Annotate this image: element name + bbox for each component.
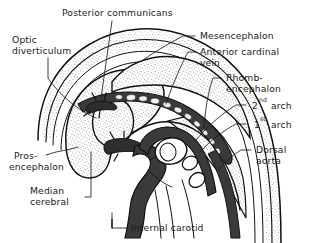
label-second-arch: 2 nd arch: [252, 96, 292, 112]
label-first-arch-word: arch: [271, 119, 292, 130]
label-rhombencephalon-line2: encephalon: [226, 83, 281, 94]
label-optic-diverticulum-line2: diverticulum: [12, 45, 71, 56]
label-posterior-communicans: Posterior communicans: [62, 7, 173, 18]
leader-internal-carotid: [112, 219, 127, 228]
label-second-arch-word: arch: [271, 100, 292, 111]
label-prosencephalon-line1: Pros-: [14, 150, 37, 161]
label-median-cerebral-line1: Median: [30, 185, 64, 196]
label-optic-diverticulum-line1: Optic: [12, 34, 37, 45]
label-rhombencephalon-line1: Rhomb-: [226, 72, 263, 83]
label-anterior-cardinal-vein-line2: vein: [200, 57, 220, 68]
label-internal-carotid: Internal carotid: [131, 222, 204, 233]
label-first-arch-superscript: st: [260, 115, 266, 122]
label-mesencephalon: Mesencephalon: [200, 30, 274, 41]
label-first-arch: 1 st arch: [254, 115, 292, 131]
label-anterior-cardinal-vein-line1: Anterior cardinal: [200, 46, 279, 57]
label-dorsal-aorta-line2: aorta: [256, 155, 281, 166]
label-dorsal-aorta-line1: Dorsal: [256, 144, 286, 155]
figure-container: Posterior communicans Optic diverticulum…: [0, 0, 318, 243]
label-second-arch-superscript: nd: [259, 96, 267, 103]
label-median-cerebral-line2: cerebral: [30, 196, 69, 207]
anatomical-diagram: Posterior communicans Optic diverticulum…: [0, 0, 318, 243]
label-second-arch-number: 2: [252, 100, 258, 111]
label-prosencephalon-line2: encephalon: [9, 161, 64, 172]
